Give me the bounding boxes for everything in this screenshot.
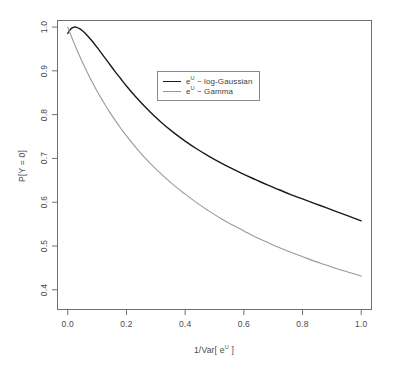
plot-canvas <box>0 0 393 371</box>
y-tick-label: 0.6 <box>39 196 49 208</box>
x-tick-label: 0.0 <box>62 319 74 329</box>
x-tick-label: 0.8 <box>296 319 308 329</box>
x-axis-title-prefix: 1/Var[ e <box>194 345 225 355</box>
y-axis-title: P[Y = 0] <box>17 150 27 182</box>
legend-item-gamma: eU ~ Gamma <box>163 86 252 96</box>
y-tick-label: 0.4 <box>39 284 49 296</box>
chart-legend: eU ~ log-Gaussian eU ~ Gamma <box>157 71 260 101</box>
y-tick-label: 0.8 <box>39 108 49 120</box>
x-tick-label: 1.0 <box>355 319 367 329</box>
x-tick-label: 0.2 <box>120 319 132 329</box>
y-tick-label: 1.0 <box>39 21 49 33</box>
x-axis-title-suffix: ] <box>229 345 234 355</box>
y-tick-label: 0.5 <box>39 240 49 252</box>
y-axis-title-prefix: P[Y <box>17 168 27 182</box>
x-tick-label: 0.6 <box>238 319 250 329</box>
x-axis-title: 1/Var[ eU ] <box>194 345 234 355</box>
x-tick-label: 0.4 <box>179 319 191 329</box>
legend-line-swatch-gamma <box>163 91 181 92</box>
figure-background <box>0 0 393 371</box>
y-tick-label: 0.9 <box>39 65 49 77</box>
chart-figure: 0.00.20.40.60.81.00.40.50.60.70.80.91.0 … <box>0 0 393 371</box>
legend-label-gamma: eU ~ Gamma <box>186 87 233 96</box>
legend-item-log-gaussian: eU ~ log-Gaussian <box>163 76 252 86</box>
y-tick-label: 0.7 <box>39 152 49 164</box>
legend-line-swatch-log-gaussian <box>163 81 181 82</box>
legend-label-log-gaussian: eU ~ log-Gaussian <box>186 77 252 86</box>
y-axis-title-suffix: = 0] <box>17 150 27 168</box>
